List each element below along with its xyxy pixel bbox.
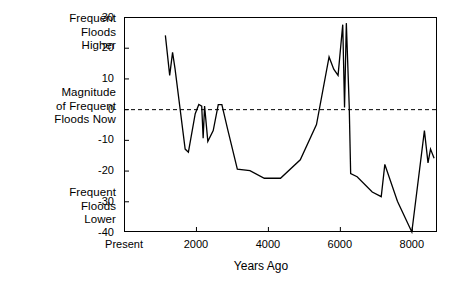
x-tick-label-present: Present bbox=[105, 239, 143, 250]
y-tick-label-30: 30 bbox=[74, 12, 114, 23]
chart-figure: Frequent Floods Higher Magnitude of Freq… bbox=[0, 0, 462, 289]
y-tick-label-neg40: -40 bbox=[74, 227, 114, 238]
x-axis-title: Years Ago bbox=[0, 259, 462, 273]
y-tick-label-neg20: -20 bbox=[74, 165, 114, 176]
y-tick-label-0: 0 bbox=[74, 104, 114, 115]
y-tick-label-neg30: -30 bbox=[74, 196, 114, 207]
x-tick-label-8000: 8000 bbox=[400, 239, 424, 250]
x-tick-label-2000: 2000 bbox=[184, 239, 208, 250]
plot-frame bbox=[125, 18, 437, 232]
x-axis-title-text: Years Ago bbox=[234, 259, 288, 273]
x-tick-label-4000: 4000 bbox=[256, 239, 280, 250]
flood-magnitude-series bbox=[165, 23, 434, 232]
y-tick-label-10: 10 bbox=[74, 73, 114, 84]
y-tick-label-neg10: -10 bbox=[74, 134, 114, 145]
y-tick-label-20: 20 bbox=[74, 42, 114, 53]
x-tick-label-6000: 6000 bbox=[328, 239, 352, 250]
